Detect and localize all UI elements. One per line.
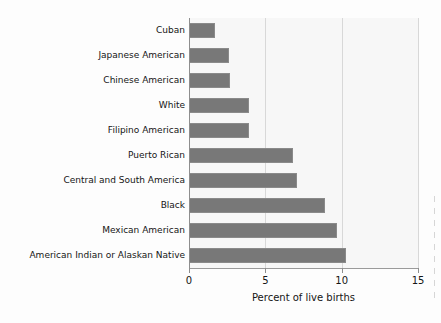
baseline-axis-line	[189, 268, 418, 269]
bar-row	[189, 218, 418, 243]
bar	[189, 123, 249, 138]
value-axis-line	[189, 18, 190, 268]
tick-label: 5	[262, 275, 268, 286]
bar-row	[189, 118, 418, 143]
bar-row	[189, 143, 418, 168]
value-axis-title: Percent of live births	[189, 292, 418, 303]
category-label: Central and South America	[4, 168, 189, 193]
category-axis-labels: CubanJapanese AmericanChinese AmericanWh…	[0, 18, 189, 268]
tick-mark	[189, 268, 190, 273]
bar-row	[189, 18, 418, 43]
category-label: Japanese American	[4, 43, 189, 68]
bar	[189, 98, 249, 113]
bar	[189, 48, 229, 63]
bar-row	[189, 168, 418, 193]
category-label: Chinese American	[4, 68, 189, 93]
category-label: White	[4, 93, 189, 118]
bar	[189, 148, 293, 163]
bar	[189, 73, 230, 88]
category-label: Filipino American	[4, 118, 189, 143]
bar-row	[189, 43, 418, 68]
tick-label: 0	[186, 275, 192, 286]
bar	[189, 173, 297, 188]
bar	[189, 198, 325, 213]
bar-row	[189, 68, 418, 93]
category-label: Puerto Rican	[4, 143, 189, 168]
tick-mark	[265, 268, 266, 273]
bar	[189, 248, 346, 263]
category-label: Black	[4, 193, 189, 218]
bar-row	[189, 93, 418, 118]
tick-mark	[342, 268, 343, 273]
plot-area	[189, 18, 418, 268]
page-edge-artifact	[434, 196, 435, 304]
bar-chart-figure: CubanJapanese AmericanChinese AmericanWh…	[0, 0, 441, 323]
tick-label: 10	[335, 275, 348, 286]
category-label: Mexican American	[4, 218, 189, 243]
tick-label: 15	[412, 275, 425, 286]
bar-row	[189, 243, 418, 268]
gridline	[418, 18, 419, 268]
bar-row	[189, 193, 418, 218]
tick-mark	[418, 268, 419, 273]
bar	[189, 223, 337, 238]
bar	[189, 23, 215, 38]
category-label: Cuban	[4, 18, 189, 43]
category-label: American Indian or Alaskan Native	[4, 243, 189, 268]
